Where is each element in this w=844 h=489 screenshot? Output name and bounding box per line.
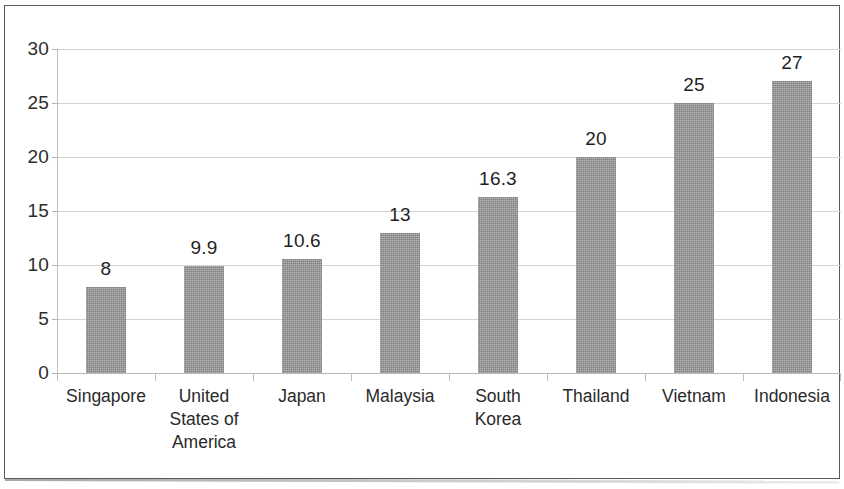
x-axis-tick [449,374,450,381]
x-axis-category-label-line: Japan [253,385,351,408]
x-axis-category-label: Malaysia [351,385,449,408]
bar [184,266,224,373]
x-axis-tick [743,374,744,381]
y-axis-label: 0 [5,362,49,384]
bar [772,81,812,373]
gridline [57,265,841,266]
x-axis-category-label-line: Korea [449,408,547,431]
y-axis-tick [52,319,58,320]
bar [86,287,126,373]
bar-value-label: 10.6 [252,230,352,252]
bar-value-label: 20 [546,128,646,150]
x-axis-category-label-line: Malaysia [351,385,449,408]
y-axis-label: 10 [5,254,49,276]
x-axis-tick [57,374,58,381]
x-axis-category-label-line: South [449,385,547,408]
x-axis-tick [547,374,548,381]
y-axis-label: 5 [5,308,49,330]
x-axis-category-labels: SingaporeUnitedStates ofAmericaJapanMala… [57,385,841,471]
bar [380,233,420,373]
x-axis-category-label-line: Singapore [57,385,155,408]
plot-area: 89.910.61316.3202527 [57,49,841,373]
bar-value-label: 9.9 [154,237,254,259]
chart-frame: 89.910.61316.3202527 051015202530 Singap… [4,5,840,479]
x-axis-category-label-line: States of [155,408,253,431]
bar [576,157,616,373]
y-axis-label: 20 [5,146,49,168]
x-axis-tick [840,374,841,381]
gridline [57,103,841,104]
y-axis-tick [52,157,58,158]
bar-value-label: 27 [742,52,842,74]
x-axis-tick [645,374,646,381]
bar-value-label: 13 [350,204,450,226]
bar [282,259,322,373]
x-axis-category-label-line: Indonesia [743,385,841,408]
bar-value-label: 16.3 [448,168,548,190]
bar-value-label: 8 [56,258,156,280]
gridline [57,49,841,50]
y-axis-tick [52,265,58,266]
x-axis-category-label-line: United [155,385,253,408]
x-axis-category-label: SouthKorea [449,385,547,431]
bar [478,197,518,373]
x-axis-category-label: UnitedStates ofAmerica [155,385,253,454]
x-axis-category-label: Indonesia [743,385,841,408]
y-axis-tick [52,103,58,104]
x-axis-category-label: Japan [253,385,351,408]
x-axis-tick [155,374,156,381]
y-axis-line [57,49,58,374]
y-axis-tick [52,211,58,212]
gridline [57,319,841,320]
bar-value-label: 25 [644,74,744,96]
y-axis-label: 15 [5,200,49,222]
x-axis-ticks [57,374,841,382]
x-axis-category-label: Thailand [547,385,645,408]
x-axis-category-label-line: America [155,431,253,454]
y-axis-label: 25 [5,92,49,114]
x-axis-tick [253,374,254,381]
x-axis-tick [351,374,352,381]
gridline [57,157,841,158]
x-axis-category-label: Vietnam [645,385,743,408]
y-axis-label: 30 [5,38,49,60]
x-axis-category-label: Singapore [57,385,155,408]
x-axis-category-label-line: Vietnam [645,385,743,408]
bar [674,103,714,373]
x-axis-category-label-line: Thailand [547,385,645,408]
bar-chart: 89.910.61316.3202527 051015202530 Singap… [5,6,841,480]
y-axis-tick [52,49,58,50]
y-axis-labels: 051015202530 [5,49,49,373]
